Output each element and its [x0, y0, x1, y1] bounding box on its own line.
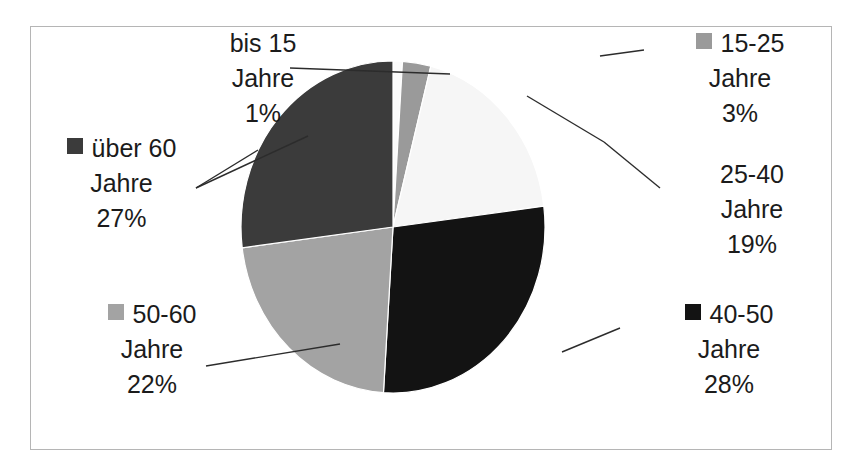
- callout-line-3-percent: 1%: [168, 96, 358, 131]
- callout-label-text: über 60: [92, 134, 177, 162]
- callout-ueber-60: über 60 Jahre 27%: [14, 131, 229, 236]
- callout-line-2: Jahre: [662, 192, 842, 227]
- callout-line-3-percent: 27%: [14, 201, 229, 236]
- legend-swatch-50-60: [108, 304, 124, 320]
- callout-line-2: Jahre: [168, 61, 358, 96]
- legend-swatch-ueber-60: [67, 138, 83, 154]
- callout-line-2: Jahre: [640, 61, 840, 96]
- callout-line-2: Jahre: [52, 332, 252, 367]
- callout-line-2: Jahre: [624, 332, 834, 367]
- callout-line-1: bis 15: [168, 26, 358, 61]
- callout-40-50: 40-50 Jahre 28%: [624, 297, 834, 402]
- callout-line-1: 40-50: [624, 297, 834, 332]
- legend-swatch-40-50: [685, 304, 701, 320]
- legend-swatch-15-25: [696, 33, 712, 49]
- pie-chart-screenshot: bis 15 Jahre 1% 15-25 Jahre 3% 25-40 Jah…: [0, 0, 855, 474]
- callout-line-3-percent: 19%: [662, 227, 842, 262]
- callout-bis-15: bis 15 Jahre 1%: [168, 26, 358, 131]
- callout-label-text: 15-25: [721, 29, 785, 57]
- callout-line-3-percent: 28%: [624, 367, 834, 402]
- callout-50-60: 50-60 Jahre 22%: [52, 297, 252, 402]
- callout-line-3-percent: 22%: [52, 367, 252, 402]
- callout-25-40: 25-40 Jahre 19%: [662, 157, 842, 262]
- callout-line-1: 50-60: [52, 297, 252, 332]
- callout-line-1: über 60: [14, 131, 229, 166]
- callout-line-3-percent: 3%: [640, 96, 840, 131]
- callout-15-25: 15-25 Jahre 3%: [640, 26, 840, 131]
- pie-slice-50-60-jahre: [242, 227, 393, 393]
- callout-label-text: 40-50: [710, 300, 774, 328]
- pie-slice-40-50-jahre: [383, 206, 545, 393]
- callout-label-text: 50-60: [133, 300, 197, 328]
- callout-line-2: Jahre: [14, 166, 229, 201]
- callout-line-1: 25-40: [662, 157, 842, 192]
- callout-line-1: 15-25: [640, 26, 840, 61]
